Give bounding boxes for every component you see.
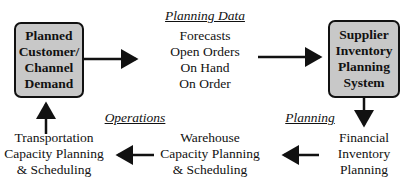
planning-data-item: Open Orders	[150, 44, 260, 60]
node-line: Customer/	[19, 44, 80, 60]
node-transportation: Transportation Capacity Planning & Sched…	[2, 130, 106, 178]
operations-label: Operations	[100, 110, 170, 126]
node-line: Financial	[326, 130, 402, 146]
planning-data-item: Forecasts	[150, 28, 260, 44]
planning-data-item: On Order	[150, 76, 260, 92]
node-warehouse: Warehouse Capacity Planning & Scheduling	[158, 130, 262, 178]
node-line: Channel	[25, 60, 74, 76]
node-line: Demand	[25, 76, 74, 92]
node-planned-demand: Planned Customer/ Channel Demand	[14, 22, 84, 98]
node-line: Capacity Planning	[158, 146, 262, 162]
node-line: Planning	[326, 162, 402, 178]
node-line: Inventory	[326, 146, 402, 162]
node-line: & Scheduling	[2, 162, 106, 178]
node-line: Transportation	[2, 130, 106, 146]
node-line: Warehouse	[158, 130, 262, 146]
node-line: Supplier	[339, 27, 389, 43]
planning-data-item: On Hand	[150, 60, 260, 76]
node-line: Inventory	[336, 43, 393, 59]
node-line: & Scheduling	[158, 162, 262, 178]
planning-data-items: Forecasts Open Orders On Hand On Order	[150, 28, 260, 92]
node-line: System	[343, 75, 384, 91]
node-line: Capacity Planning	[2, 146, 106, 162]
node-line: Planned	[25, 28, 72, 44]
node-supplier-inventory-planning-system: Supplier Inventory Planning System	[328, 20, 400, 98]
planning-label: Planning	[280, 110, 340, 126]
node-line: Planning	[338, 59, 390, 75]
planning-data-heading: Planning Data	[150, 8, 260, 24]
node-financial-inventory-planning: Financial Inventory Planning	[326, 130, 402, 178]
